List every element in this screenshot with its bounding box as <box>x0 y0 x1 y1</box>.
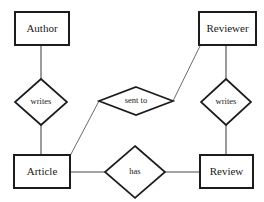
relationship-writes-left[interactable]: writes <box>15 79 67 125</box>
connector-sent-to-reviewer <box>173 46 200 101</box>
relationship-sent-to[interactable]: sent to <box>99 87 173 115</box>
relationship-has-label: has <box>129 166 140 176</box>
entity-reviewer[interactable]: Reviewer <box>199 12 256 45</box>
entity-article[interactable]: Article <box>14 155 70 188</box>
relationship-writes-right[interactable]: writes <box>201 79 251 125</box>
entity-review-label: Review <box>210 165 244 177</box>
connector-article-sent-to <box>70 101 99 156</box>
relationship-writes-right-label: writes <box>216 96 237 106</box>
entity-author[interactable]: Author <box>15 12 69 45</box>
relationship-writes-left-label: writes <box>31 96 52 106</box>
relationship-sent-to-label: sent to <box>125 95 147 105</box>
relationship-has[interactable]: has <box>105 146 165 198</box>
entity-reviewer-label: Reviewer <box>206 22 248 34</box>
entity-review[interactable]: Review <box>200 155 253 188</box>
entity-author-label: Author <box>26 22 58 34</box>
entity-article-label: Article <box>27 165 58 177</box>
er-diagram-canvas: Author Reviewer Article Review writes se… <box>0 0 264 202</box>
